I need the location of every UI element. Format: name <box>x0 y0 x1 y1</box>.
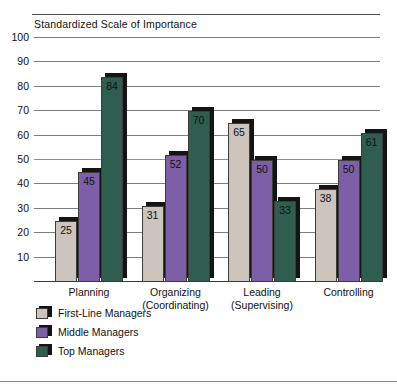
bar-value-label: 25 <box>56 225 76 236</box>
category-sublabel: (Supervising) <box>212 299 312 312</box>
bar-value-label: 38 <box>316 193 336 204</box>
y-axis-tick-100: 100 <box>11 31 29 43</box>
legend-swatch-icon <box>36 306 53 319</box>
legend-label: Middle Managers <box>58 326 139 338</box>
bar-value-label: 84 <box>102 81 122 92</box>
x-axis-baseline <box>34 281 380 282</box>
y-axis-tick-50: 50 <box>17 153 29 165</box>
bar-value-label: 70 <box>189 115 209 126</box>
bar-fill: 70 <box>188 111 210 282</box>
y-axis-tick-20: 20 <box>17 226 29 238</box>
legend-swatch-fill <box>36 327 48 338</box>
bar-value-label: 50 <box>339 164 359 175</box>
y-axis-tick-90: 90 <box>17 55 29 67</box>
y-axis-tick-60: 60 <box>17 129 29 141</box>
bar[interactable]: 61 <box>361 133 383 282</box>
legend-swatch-fill <box>36 308 48 319</box>
bar-value-label: 50 <box>252 164 272 175</box>
bar[interactable]: 50 <box>251 160 273 282</box>
y-axis-tick-40: 40 <box>17 177 29 189</box>
legend-label: Top Managers <box>58 345 125 357</box>
bar-value-label: 52 <box>166 159 186 170</box>
chart-title: Standardized Scale of Importance <box>34 18 197 30</box>
bar-fill: 61 <box>361 133 383 282</box>
bar-value-label: 31 <box>143 210 163 221</box>
bar[interactable]: 65 <box>228 123 250 282</box>
legend-swatch-icon <box>36 325 53 338</box>
bar[interactable]: 31 <box>142 206 164 282</box>
y-axis-tick-10: 10 <box>17 251 29 263</box>
bar-fill: 31 <box>142 206 164 282</box>
x-axis-category-label: Controlling <box>299 286 397 299</box>
bar[interactable]: 52 <box>165 155 187 282</box>
y-axis-tick-70: 70 <box>17 104 29 116</box>
bars-layer: 254584315270655033385061 <box>34 38 380 282</box>
bar-fill: 45 <box>78 172 100 282</box>
bar-fill: 38 <box>315 189 337 282</box>
bottom-divider-rule <box>0 381 397 382</box>
legend-label: First-Line Managers <box>58 307 151 319</box>
bar-value-label: 33 <box>275 205 295 216</box>
y-axis-tick-30: 30 <box>17 202 29 214</box>
bar-value-label: 45 <box>79 176 99 187</box>
bar-fill: 25 <box>55 221 77 282</box>
bar-group: 315270 <box>142 38 210 282</box>
chart-container: Standardized Scale of Importance 1009080… <box>0 0 397 390</box>
plot-area: 100908070605040302010 254584315270655033… <box>34 38 380 282</box>
bar-value-label: 65 <box>229 127 249 138</box>
legend-swatch-fill <box>36 346 48 357</box>
legend-item[interactable]: Middle Managers <box>36 322 151 341</box>
x-axis-category-label: Leading(Supervising) <box>212 286 312 311</box>
bar-group: 385061 <box>315 38 383 282</box>
bar-fill: 65 <box>228 123 250 282</box>
category-name: Planning <box>69 286 110 298</box>
legend-swatch-icon <box>36 344 53 357</box>
bar-fill: 84 <box>101 77 123 282</box>
bar[interactable]: 25 <box>55 221 77 282</box>
bar-fill: 50 <box>338 160 360 282</box>
y-axis-tick-80: 80 <box>17 80 29 92</box>
category-name: Organizing <box>150 286 201 298</box>
legend-item[interactable]: First-Line Managers <box>36 303 151 322</box>
bar-group: 655033 <box>228 38 296 282</box>
bar[interactable]: 38 <box>315 189 337 282</box>
bar-fill: 50 <box>251 160 273 282</box>
bar-fill: 52 <box>165 155 187 282</box>
bar-fill: 33 <box>274 201 296 282</box>
bar[interactable]: 45 <box>78 172 100 282</box>
category-name: Controlling <box>323 286 373 298</box>
legend-item[interactable]: Top Managers <box>36 341 151 360</box>
bar-value-label: 61 <box>362 137 382 148</box>
top-divider-rule <box>32 14 380 15</box>
bar[interactable]: 84 <box>101 77 123 282</box>
bar[interactable]: 50 <box>338 160 360 282</box>
x-axis-category-label: Planning <box>39 286 139 299</box>
category-name: Leading <box>243 286 280 298</box>
chart-legend: First-Line ManagersMiddle ManagersTop Ma… <box>36 303 151 360</box>
bar-group: 254584 <box>55 38 123 282</box>
bar[interactable]: 70 <box>188 111 210 282</box>
bar[interactable]: 33 <box>274 201 296 282</box>
